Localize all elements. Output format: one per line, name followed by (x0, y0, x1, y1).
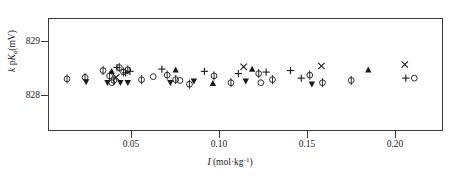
x-tick-label-1: 0.10 (199, 139, 239, 149)
x-tick-mark (307, 131, 308, 138)
data-point-circle (258, 80, 264, 86)
data-point-triangle-up (172, 66, 178, 72)
data-point-phi (320, 78, 326, 87)
x-tick-mark (395, 131, 396, 138)
data-point-plus (287, 67, 294, 74)
data-point-triangle-up (249, 66, 255, 72)
x-axis-title: I (mol·kg-1) (0, 156, 460, 167)
data-point-plus (158, 65, 165, 72)
data-point-phi (211, 71, 217, 80)
data-point-phi (164, 71, 170, 80)
data-point-plus (235, 70, 242, 77)
plot-area (48, 18, 443, 131)
data-point-triangle-down (83, 79, 89, 85)
data-point-triangle-down (167, 80, 173, 86)
data-point-cross (318, 63, 324, 69)
data-point-circle (411, 75, 417, 81)
x-tick-label-2: 0.15 (287, 139, 327, 149)
data-point-phi (270, 75, 276, 84)
x-tick-label-0: 0.05 (111, 139, 151, 149)
data-point-cross (402, 61, 408, 67)
data-point-plus (298, 75, 305, 82)
data-point-phi (348, 76, 354, 85)
data-point-phi (256, 69, 262, 78)
y-axis-title: k pKa(mV) (7, 16, 19, 86)
data-point-plus (402, 75, 409, 82)
x-tick-mark (219, 131, 220, 138)
data-points-layer (49, 19, 444, 132)
data-point-triangle-down (243, 79, 249, 85)
y-tick-label-829: 829 (16, 36, 40, 46)
y-tick-label-828: 828 (16, 90, 40, 100)
data-point-phi (100, 66, 106, 75)
data-point-phi (307, 71, 313, 80)
data-point-circle (177, 78, 183, 84)
data-point-plus (201, 68, 208, 75)
data-point-triangle-down (125, 80, 131, 86)
data-point-triangle-up (365, 66, 371, 72)
data-point-plus (263, 68, 270, 75)
data-point-phi (228, 78, 234, 87)
x-tick-mark (131, 131, 132, 138)
scatter-plot-figure: k pKa(mV) 829 828 0.05 0.10 0.15 0.20 I … (0, 0, 460, 180)
data-point-phi (139, 75, 145, 84)
data-point-phi (187, 80, 193, 89)
data-point-phi (64, 74, 70, 83)
x-tick-label-3: 0.20 (375, 139, 415, 149)
data-point-triangle-down (309, 82, 315, 88)
data-point-triangle-up (210, 80, 216, 86)
data-point-triangle-up (109, 68, 115, 74)
data-point-cross (240, 64, 246, 70)
data-point-triangle-down (191, 79, 197, 85)
data-point-triangle-down (117, 80, 123, 86)
data-point-circle (150, 74, 156, 80)
